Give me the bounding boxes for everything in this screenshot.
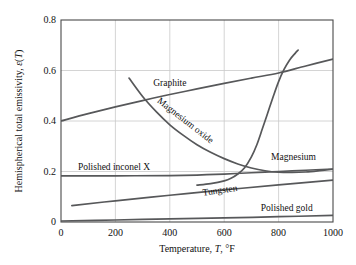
series-line-graphite xyxy=(61,59,333,121)
series-line-polished-gold xyxy=(61,215,333,221)
y-axis-title: Hemispherical total emissivity, ε(T) xyxy=(14,20,28,222)
x-tick-label: 0 xyxy=(39,228,83,238)
x-tick-label: 1000 xyxy=(311,228,355,238)
temperature-symbol: T xyxy=(13,53,24,59)
x-tick-label: 600 xyxy=(202,228,246,238)
emissivity-chart-figure: 00.20.40.60.8 02004006008001000 Graphite… xyxy=(0,0,356,265)
x-tick-label: 800 xyxy=(257,228,301,238)
curve-label-graphite: Graphite xyxy=(153,80,186,90)
curve-label-polished-gold: Polished gold xyxy=(261,204,313,214)
x-tick-label: 200 xyxy=(93,228,137,238)
gridlines-group xyxy=(61,20,333,222)
curve-label-magnesium: Magnesium xyxy=(271,153,316,163)
epsilon-symbol: ε xyxy=(13,62,24,66)
curve-label-polished-inconel-x: Polished inconel X xyxy=(78,164,150,174)
x-tick-label: 400 xyxy=(148,228,192,238)
x-axis-title: Temperature, T, °F xyxy=(61,244,333,254)
temperature-symbol: T xyxy=(215,243,221,254)
